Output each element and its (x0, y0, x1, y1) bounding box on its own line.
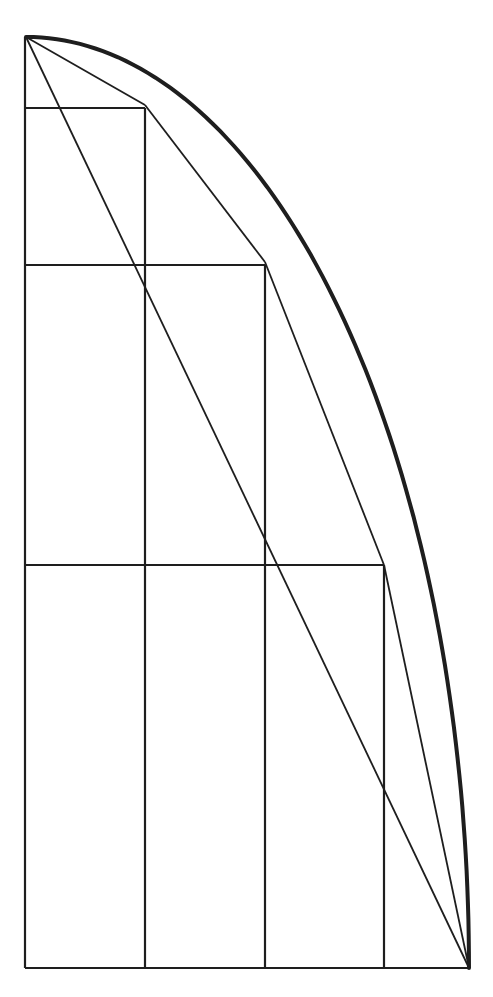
chord-line (384, 565, 469, 968)
chord-line (145, 105, 265, 262)
chord-line (265, 262, 384, 565)
main-diagonal (26, 37, 469, 968)
curve-construction-diagram (0, 0, 493, 997)
